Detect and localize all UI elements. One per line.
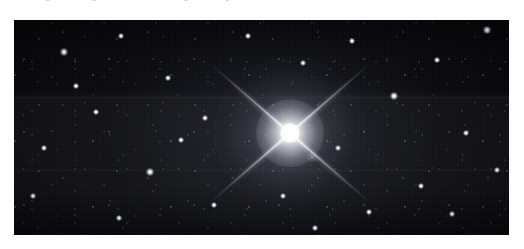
- figure-caption-clipped: Fig. 1. — The brightest star in the fiel…: [0, 0, 524, 4]
- star-field-photo: [14, 20, 509, 235]
- page-root: Fig. 1. — The brightest star in the fiel…: [0, 0, 524, 249]
- photo-vignette: [14, 20, 509, 235]
- figure-caption-text: Fig. 1. — The brightest star in the fiel…: [40, 0, 244, 2]
